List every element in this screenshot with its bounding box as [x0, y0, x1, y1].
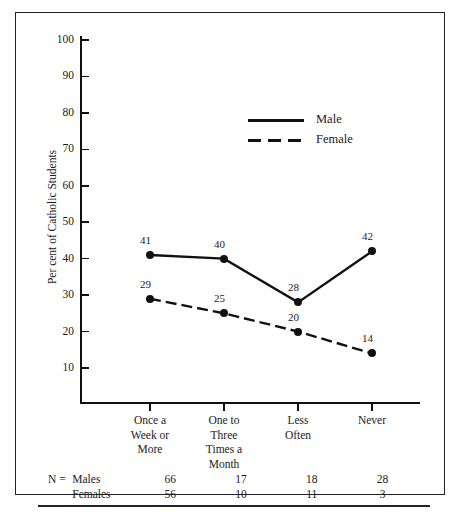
data-marker-female-2: [294, 328, 302, 336]
n-females-0: 56: [135, 487, 206, 502]
n-males-3: 28: [347, 472, 418, 487]
chart-plot-area: Per cent of Catholic Students 1009080706…: [16, 13, 446, 496]
data-label-female-1: 25: [214, 293, 225, 304]
n-females-2: 11: [276, 487, 347, 502]
data-marker-female-0: [146, 295, 154, 303]
legend-label-female: Female: [316, 131, 353, 148]
series-line-male: [150, 251, 372, 302]
n-symbol: N =: [48, 472, 72, 487]
legend-label-male: Male: [316, 111, 342, 128]
table-row: N = Males 66 17 18 28: [48, 472, 418, 487]
n-symbol-spacer: [48, 487, 72, 502]
table-row: Females 56 10 11 3: [48, 487, 418, 502]
data-label-male-1: 40: [214, 239, 225, 250]
figure-frame: Per cent of Catholic Students 1009080706…: [15, 12, 445, 495]
n-males-2: 18: [276, 472, 347, 487]
data-label-male-2: 28: [288, 282, 299, 293]
data-marker-male-1: [220, 255, 228, 263]
n-females-1: 10: [206, 487, 277, 502]
n-row-label-males: Males: [72, 472, 135, 487]
data-label-female-3: 14: [362, 333, 373, 344]
n-row-label-females: Females: [72, 487, 135, 502]
legend-line-solid: [248, 119, 304, 122]
data-label-male-3: 42: [362, 231, 373, 242]
series-line-female: [150, 299, 372, 354]
data-label-male-0: 41: [140, 235, 151, 246]
data-label-female-0: 29: [140, 279, 151, 290]
table-bottom-rule: [38, 505, 430, 507]
n-males-1: 17: [206, 472, 277, 487]
sample-size-table: N = Males 66 17 18 28 Females 56 10 11 3: [48, 472, 428, 502]
n-males-0: 66: [135, 472, 206, 487]
legend-line-dashed: [248, 139, 304, 142]
series-lines: [16, 13, 446, 496]
data-label-female-2: 20: [288, 312, 299, 323]
data-marker-male-0: [146, 251, 154, 259]
n-table: N = Males 66 17 18 28 Females 56 10 11 3: [48, 472, 418, 502]
n-females-3: 3: [347, 487, 418, 502]
